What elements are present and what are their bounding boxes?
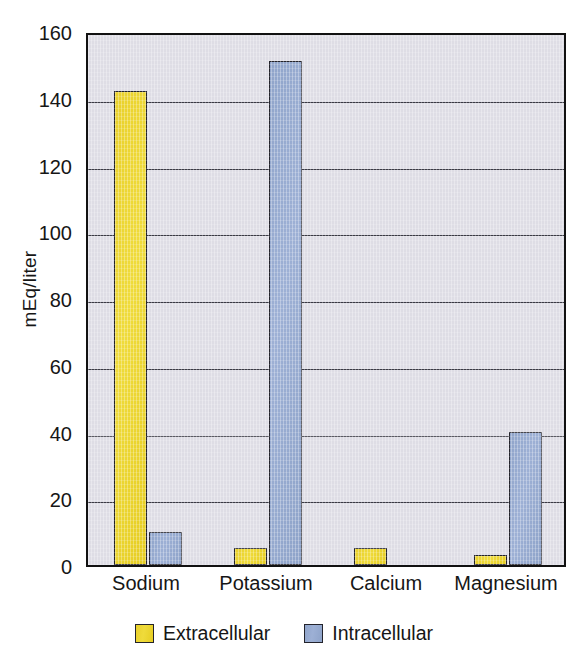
bar-calcium-extracellular bbox=[354, 548, 387, 565]
chart-legend: ExtracellularIntracellular bbox=[0, 622, 568, 645]
y-axis-tick-label: 20 bbox=[50, 490, 72, 510]
bar-magnesium-extracellular bbox=[474, 555, 507, 565]
extracellular-swatch bbox=[135, 624, 154, 643]
x-axis-tick-label-potassium: Potassium bbox=[219, 571, 312, 595]
x-axis-tick-label-magnesium: Magnesium bbox=[454, 571, 557, 595]
x-axis-category-labels: SodiumPotassiumCalciumMagnesium bbox=[86, 571, 566, 601]
paper-texture-overlay bbox=[88, 35, 564, 565]
y-axis-tick-label: 0 bbox=[61, 557, 72, 577]
bar-sodium-extracellular bbox=[114, 91, 147, 565]
legend-label: Intracellular bbox=[332, 622, 433, 645]
gridline bbox=[88, 369, 564, 370]
y-axis-tick-label: 60 bbox=[50, 357, 72, 377]
legend-item-intracellular: Intracellular bbox=[304, 622, 433, 645]
y-axis-tick-label: 160 bbox=[39, 23, 72, 43]
gridline bbox=[88, 502, 564, 503]
gridline bbox=[88, 235, 564, 236]
bar-magnesium-intracellular bbox=[509, 432, 542, 566]
y-axis-tick-label: 120 bbox=[39, 157, 72, 177]
bar-potassium-extracellular bbox=[234, 548, 267, 565]
gridline bbox=[88, 302, 564, 303]
x-axis-tick-label-calcium: Calcium bbox=[350, 571, 422, 595]
y-axis-tick-label: 40 bbox=[50, 424, 72, 444]
intracellular-swatch bbox=[304, 624, 323, 643]
bar-sodium-intracellular bbox=[149, 532, 182, 565]
plot-area bbox=[86, 33, 566, 567]
legend-label: Extracellular bbox=[163, 622, 270, 645]
gridline bbox=[88, 436, 564, 437]
gridline bbox=[88, 169, 564, 170]
bar-chart-figure: mEq/liter 020406080100120140160 SodiumPo… bbox=[0, 0, 568, 665]
y-axis-tick-label: 100 bbox=[39, 223, 72, 243]
y-axis-tick-label: 140 bbox=[39, 90, 72, 110]
gridline bbox=[88, 102, 564, 103]
y-axis-tick-labels: 020406080100120140160 bbox=[0, 0, 80, 665]
y-axis-tick-label: 80 bbox=[50, 290, 72, 310]
x-axis-tick-label-sodium: Sodium bbox=[112, 571, 180, 595]
bar-potassium-intracellular bbox=[269, 61, 302, 565]
legend-item-extracellular: Extracellular bbox=[135, 622, 270, 645]
